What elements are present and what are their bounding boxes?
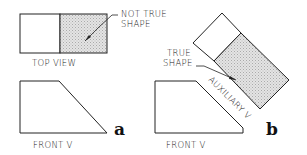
front-view-b bbox=[155, 81, 243, 133]
figure-letter-a: a bbox=[114, 119, 125, 139]
front-view-a bbox=[20, 81, 107, 133]
diagram-canvas: NOT TRUE SHAPE TOP VIEW a FRONT V TRUE S… bbox=[0, 0, 307, 155]
callout-a-line1: NOT TRUE bbox=[121, 9, 167, 19]
figure-letter-b: b bbox=[266, 119, 278, 139]
callout-a-line2: SHAPE bbox=[121, 19, 151, 29]
front-view-label-a: FRONT V bbox=[33, 140, 73, 150]
top-view-a bbox=[20, 14, 107, 53]
front-view-label-b: FRONT V bbox=[166, 140, 206, 150]
top-view-label: TOP VIEW bbox=[32, 58, 76, 68]
callout-b-line2: SHAPE bbox=[163, 58, 193, 68]
callout-b-line1: TRUE bbox=[167, 48, 191, 58]
